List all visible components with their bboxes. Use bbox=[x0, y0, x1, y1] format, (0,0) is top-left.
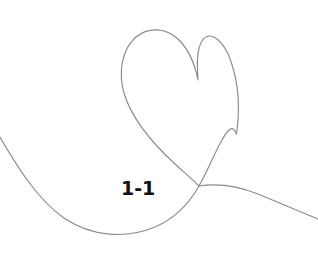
line-art-illustration bbox=[0, 0, 318, 273]
heart-outline-path bbox=[121, 30, 238, 186]
loop-sweep-path bbox=[0, 129, 237, 235]
artwork-canvas: 1-1 bbox=[0, 0, 318, 273]
right-tail-path bbox=[199, 185, 318, 219]
figure-label: 1-1 bbox=[121, 177, 155, 199]
